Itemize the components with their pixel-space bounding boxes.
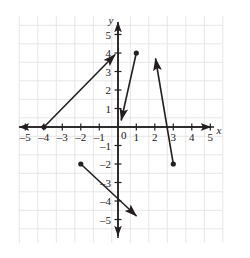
- x-tick-label: 3: [171, 131, 177, 143]
- y-tick-label: 1: [106, 103, 112, 115]
- x-tick-labels: –5 –4 –3 –2 –1 1 2 3 4 5: [19, 131, 214, 143]
- y-tick-label: –1: [99, 140, 111, 152]
- x-tick-label: 1: [134, 131, 140, 143]
- ray-1-endpoint-dot: [41, 124, 46, 129]
- ray-4-endpoint-dot: [78, 161, 83, 166]
- graph-canvas: –5 –4 –3 –2 –1 1 2 3 4 5 5 4 3 2 1 –1 –2…: [0, 0, 250, 258]
- y-tick-label: –5: [99, 214, 112, 226]
- x-tick-label: 5: [208, 131, 214, 143]
- y-tick-label: –4: [99, 195, 112, 207]
- ray-3-segment: [156, 59, 174, 165]
- ray-3: [156, 59, 176, 167]
- origin-label: 0: [121, 129, 127, 141]
- ray-3-endpoint-dot: [171, 161, 176, 166]
- ray-1: [41, 55, 115, 130]
- x-tick-label: 4: [189, 131, 195, 143]
- x-tick-label: 2: [152, 131, 158, 143]
- y-tick-label: 5: [106, 29, 112, 41]
- y-tick-label: 4: [106, 47, 112, 59]
- ray-2-endpoint-dot: [134, 50, 139, 55]
- ray-2-segment: [121, 53, 136, 121]
- coordinate-plane-figure: –5 –4 –3 –2 –1 1 2 3 4 5 5 4 3 2 1 –1 –2…: [0, 0, 250, 258]
- y-axis-label: y: [108, 14, 114, 26]
- x-tick-label: –5: [19, 131, 32, 143]
- y-tick-label: 3: [106, 66, 112, 78]
- x-axis-label: x: [216, 124, 222, 136]
- y-tick-label: –2: [99, 158, 111, 170]
- x-tick-label: –3: [56, 131, 69, 143]
- axes: [19, 22, 214, 238]
- ray-4-segment: [81, 164, 137, 216]
- x-tick-label: –2: [74, 131, 86, 143]
- x-tick-label: –4: [37, 131, 50, 143]
- y-tick-label: 2: [106, 84, 112, 96]
